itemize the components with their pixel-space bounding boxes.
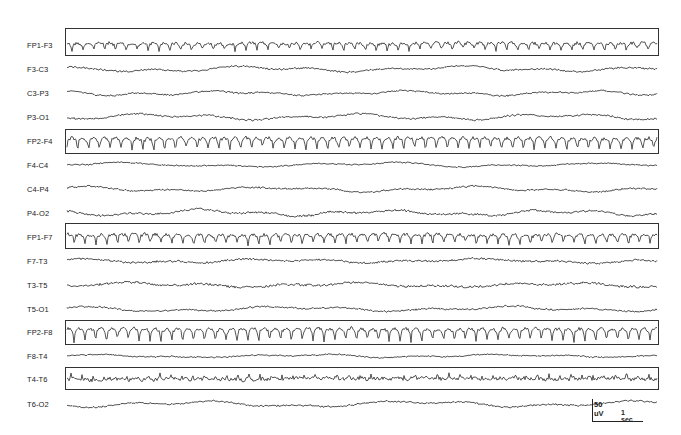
eeg-trace-t6-o2: [67, 400, 657, 408]
highlight-box-t4-t6: [65, 367, 659, 390]
highlight-box-fp2-f8: [65, 320, 659, 345]
channel-label: T4-T6: [27, 375, 48, 384]
scale-amplitude-label: 50 uV: [594, 400, 604, 418]
channel-label: F7-T3: [27, 257, 48, 266]
channel-label: P4-O2: [27, 209, 49, 218]
highlight-box-fp1-f3: [65, 28, 659, 56]
channel-label: P3-O1: [27, 113, 49, 122]
channel-label: C4-P4: [27, 185, 49, 194]
eeg-trace-f4-c4: [67, 162, 657, 168]
highlight-box-fp1-f7: [65, 223, 659, 249]
channel-label: T3-T5: [27, 281, 48, 290]
eeg-trace-p3-o1: [67, 113, 657, 121]
scale-bar-vertical: [592, 399, 593, 422]
channel-label: T5-O1: [27, 305, 49, 314]
eeg-trace-c3-p3: [67, 90, 657, 97]
channel-label: C3-P3: [27, 89, 49, 98]
channel-label: F3-C3: [27, 65, 48, 74]
channel-label: FP2-F4: [27, 137, 53, 146]
scale-time-label: 1 sec: [621, 409, 633, 423]
channel-label: FP1-F3: [27, 41, 53, 50]
channel-label: FP1-F7: [27, 233, 53, 242]
channel-label: F8-T4: [27, 352, 48, 361]
eeg-trace-p4-o2: [67, 208, 657, 217]
highlight-box-fp2-f4: [65, 129, 659, 154]
eeg-trace-t3-t5: [67, 281, 657, 288]
eeg-trace-f7-t3: [67, 258, 657, 265]
eeg-trace-t5-o1: [67, 305, 657, 312]
scale-bar-horizontal: [592, 421, 643, 422]
channel-label: F4-C4: [27, 161, 48, 170]
eeg-trace-c4-p4: [67, 185, 657, 193]
eeg-trace-f3-c3: [67, 65, 657, 73]
channel-label: FP2-F8: [27, 328, 53, 337]
channel-label: T6-O2: [27, 400, 49, 409]
eeg-trace-f8-t4: [67, 354, 657, 359]
